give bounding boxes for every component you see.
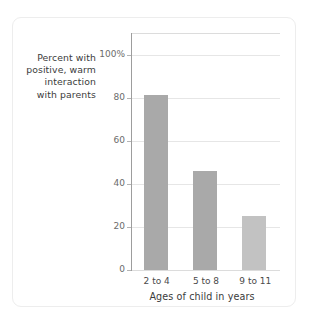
y-tick-label-40: 40: [89, 178, 125, 188]
x-tick-label-9-to-11: 9 to 11: [225, 276, 285, 286]
y-tick-label-100: 100%: [89, 49, 125, 59]
y-tick-mark-0: [127, 270, 131, 271]
bar-2-to-4: [144, 95, 168, 270]
y-axis-label-line-3: interaction: [18, 76, 96, 88]
plot-area: [131, 33, 279, 270]
chart-figure: Percent with positive, warm interaction …: [0, 0, 312, 324]
y-axis-label-line-2: positive, warm: [18, 64, 96, 76]
y-axis-label: Percent with positive, warm interaction …: [18, 52, 96, 101]
gridline-0: [132, 270, 280, 271]
y-tick-label-20: 20: [89, 221, 125, 231]
y-tick-label-80: 80: [89, 92, 125, 102]
y-axis-label-line-4: with parents: [18, 89, 96, 101]
bar-9-to-11: [242, 216, 266, 270]
y-tick-label-0: 0: [89, 264, 125, 274]
bar-5-to-8: [193, 171, 217, 270]
x-axis-label: Ages of child in years: [112, 291, 292, 302]
y-tick-label-60: 60: [89, 135, 125, 145]
y-axis-label-line-1: Percent with: [18, 52, 96, 64]
